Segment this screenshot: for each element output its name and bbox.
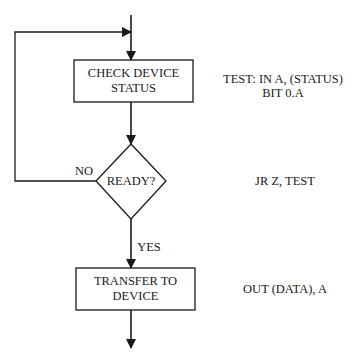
code-check-line-1: TEST: IN A, (STATUS) <box>212 72 354 86</box>
check-line-2: STATUS <box>111 81 156 96</box>
yes-label: YES <box>136 240 162 254</box>
code-ready: JR Z, TEST <box>230 174 340 188</box>
no-label: NO <box>72 164 96 178</box>
no-loop-line <box>15 32 131 181</box>
check-device-status-text: CHECK DEVICE STATUS <box>74 60 193 102</box>
code-check: TEST: IN A, (STATUS) BIT 0.A <box>212 72 354 100</box>
code-check-line-2: BIT 0.A <box>212 86 354 100</box>
transfer-line-2: DEVICE <box>113 289 159 304</box>
code-transfer: OUT (DATA), A <box>230 282 340 296</box>
ready-label: READY? <box>96 174 166 188</box>
transfer-to-device-text: TRANSFER TO DEVICE <box>76 268 195 310</box>
check-line-1: CHECK DEVICE <box>88 66 179 81</box>
transfer-line-1: TRANSFER TO <box>94 274 177 289</box>
